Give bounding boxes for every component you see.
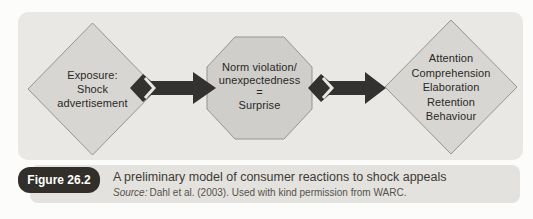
node-text-line: Exposure: (28, 68, 157, 82)
node-text-line: advertisement (28, 96, 157, 110)
node-text-line: Comprehension (385, 66, 517, 81)
node-text-line: = (207, 86, 312, 99)
node-text-line: Surprise (207, 99, 312, 112)
node-text-line: Behaviour (385, 109, 517, 124)
connector-arrow-2 (308, 72, 386, 104)
exposure-node-label: Exposure: Shock advertisement (28, 68, 157, 110)
figure-source: Source:Dahl et al. (2003). Used with kin… (113, 187, 523, 198)
figure-caption: A preliminary model of consumer reaction… (113, 170, 523, 184)
figure-caption-block: A preliminary model of consumer reaction… (113, 170, 523, 198)
node-text-line: unexpectedness (207, 74, 312, 87)
figure-badge: Figure 26.2 (18, 167, 100, 193)
surprise-node-label: Norm violation/ unexpectedness = Surpris… (207, 61, 312, 111)
node-text-line: Attention (385, 51, 517, 66)
source-text: Dahl et al. (2003). Used with kind permi… (149, 187, 406, 198)
node-text-line: Norm violation/ (207, 61, 312, 74)
figure-badge-label: Figure 26.2 (27, 173, 90, 187)
figure-26-2: Exposure: Shock advertisement Norm viola… (0, 0, 533, 219)
block-arrow-icon (308, 72, 386, 104)
source-label: Source: (113, 187, 147, 198)
node-text-line: Shock (28, 82, 157, 96)
reactions-node-label: Attention Comprehension Elaboration Rete… (385, 51, 517, 124)
node-text-line: Retention (385, 95, 517, 110)
node-text-line: Elaboration (385, 80, 517, 95)
